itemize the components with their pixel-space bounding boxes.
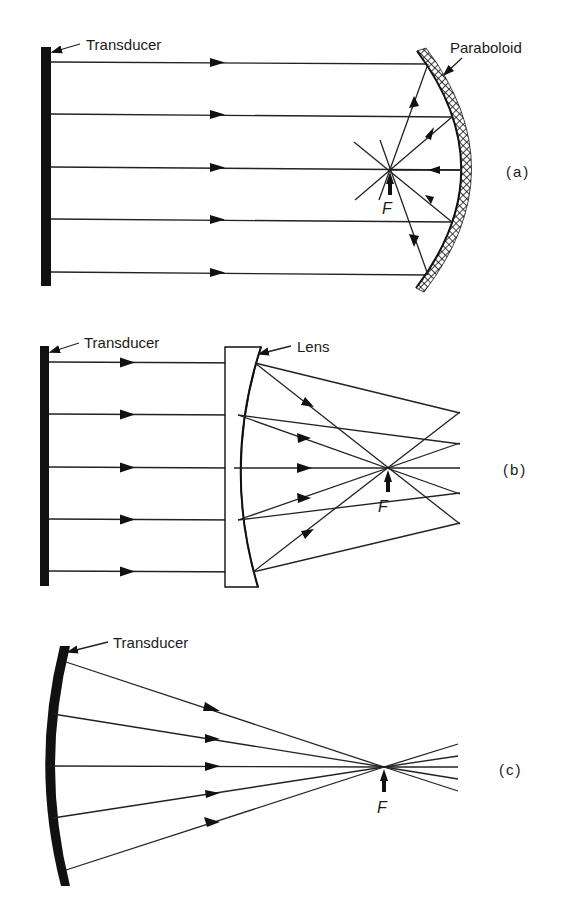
incident-rays-b	[49, 358, 255, 577]
transducer-flat-a	[41, 47, 51, 286]
focusing-diagram: Transducer	[0, 0, 563, 915]
focus-arrow-b	[384, 470, 392, 492]
converging-rays-c	[49, 662, 458, 870]
lens-pointer	[263, 346, 291, 353]
lens-label: Lens	[297, 338, 330, 355]
panel-a: Transducer	[41, 36, 530, 292]
panel-c: Transducer F (c)	[45, 634, 522, 886]
incident-rays-a	[51, 58, 462, 277]
paraboloid-pointer	[447, 58, 462, 72]
transducer-flat-b	[40, 346, 49, 586]
panel-b: Transducer Lens	[40, 334, 527, 587]
transducer-pointer-a	[56, 44, 80, 51]
transducer-pointer-b	[54, 343, 79, 351]
focus-label-c: F	[377, 799, 388, 816]
transducer-label-b: Transducer	[84, 334, 159, 351]
panel-label-b: (b)	[503, 461, 527, 478]
refracted-rays-b	[234, 363, 460, 572]
transducer-label-a: Transducer	[86, 36, 161, 53]
paraboloid-label: Paraboloid	[450, 39, 522, 56]
focus-label-a: F	[382, 200, 393, 217]
panel-label-a: (a)	[506, 163, 530, 180]
focus-label-b: F	[378, 498, 389, 515]
focus-arrow-c	[380, 769, 388, 792]
lens	[225, 347, 261, 587]
panel-label-c: (c)	[499, 761, 523, 778]
transducer-pointer-c	[72, 642, 108, 651]
transducer-label-c: Transducer	[113, 634, 188, 651]
